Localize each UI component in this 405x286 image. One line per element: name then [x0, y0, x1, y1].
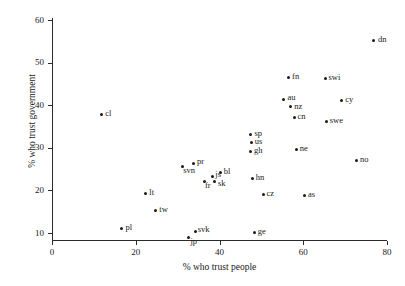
y-tick-mark [48, 190, 52, 191]
y-tick-mark [48, 20, 52, 21]
data-point-marker [250, 141, 253, 144]
data-point-marker [120, 227, 123, 230]
data-point-label: fr [205, 181, 211, 190]
data-point-label: ge [258, 227, 266, 236]
data-point-label: fn [292, 72, 299, 81]
y-tick-mark [48, 63, 52, 64]
data-point-marker [340, 99, 343, 102]
data-point-label: bl [224, 167, 231, 176]
data-point-marker [303, 194, 306, 197]
x-tick-label: 20 [124, 248, 148, 257]
data-point-marker [262, 193, 265, 196]
data-point-label: svk [198, 225, 210, 234]
data-point-marker [211, 175, 214, 178]
data-point-label: as [308, 190, 315, 199]
data-point-label: cn [298, 112, 306, 121]
y-axis-title: % who trust government [27, 41, 37, 201]
data-point-label: cy [345, 95, 353, 104]
data-point-marker [192, 162, 195, 165]
data-point-label: swi [329, 73, 341, 82]
data-point-marker [154, 209, 157, 212]
data-point-label: dn [378, 35, 387, 44]
data-point-label: cz [267, 189, 275, 198]
data-point-label: hn [256, 173, 265, 182]
data-point-label: lt [149, 188, 154, 197]
data-point-marker [249, 150, 252, 153]
data-point-label: cl [105, 109, 111, 118]
y-tick-label: 60 [22, 16, 44, 25]
x-tick-mark [220, 241, 221, 245]
data-point-label: swe [330, 116, 343, 125]
data-point-marker [295, 148, 298, 151]
x-tick-mark [52, 241, 53, 245]
y-tick-mark [48, 105, 52, 106]
data-point-marker [194, 230, 197, 233]
x-tick-mark [387, 241, 388, 245]
data-point-marker [282, 98, 285, 101]
y-tick-mark [48, 148, 52, 149]
y-tick-label: 10 [22, 229, 44, 238]
scatter-plot-figure: 102030405060 020406080 dnfnswiaunzcycnsw… [0, 0, 405, 286]
data-point-marker [355, 159, 358, 162]
data-point-label: gh [254, 146, 263, 155]
y-tick-mark [48, 233, 52, 234]
data-point-marker [289, 105, 292, 108]
data-point-marker [100, 113, 103, 116]
data-point-label: nz [294, 102, 302, 111]
x-tick-mark [136, 241, 137, 245]
data-point-marker [219, 171, 222, 174]
data-point-marker [253, 231, 256, 234]
data-point-label: pr [197, 157, 204, 166]
data-point-marker [325, 120, 328, 123]
data-point-marker [372, 39, 375, 42]
data-point-label: sk [218, 179, 226, 188]
plot-area: 102030405060 020406080 dnfnswiaunzcycnsw… [0, 0, 405, 286]
data-point-marker [324, 77, 327, 80]
data-point-label: no [360, 155, 369, 164]
y-axis-line [52, 18, 53, 240]
data-point-marker [213, 180, 216, 183]
data-point-label: pl [125, 223, 132, 232]
data-point-label: tw [159, 205, 168, 214]
x-tick-label: 60 [291, 248, 315, 257]
data-point-marker [287, 76, 290, 79]
x-tick-label: 80 [375, 248, 399, 257]
x-tick-mark [303, 241, 304, 245]
data-point-label: svn [183, 166, 195, 175]
x-tick-label: 0 [40, 248, 64, 257]
data-point-marker [249, 133, 252, 136]
x-tick-label: 40 [208, 248, 232, 257]
data-point-marker [293, 116, 296, 119]
data-point-label: ne [300, 144, 308, 153]
data-point-label: jp [190, 237, 197, 246]
x-axis-title: % who trust people [52, 262, 387, 272]
data-point-marker [251, 177, 254, 180]
data-point-marker [144, 192, 147, 195]
